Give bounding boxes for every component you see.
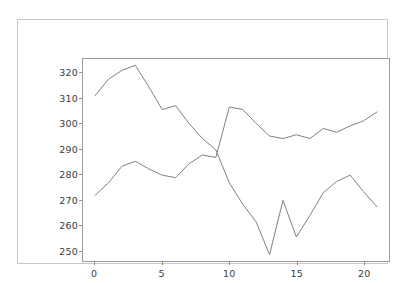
y-tick-label-310: 310 [59,92,78,103]
series-line-2 [95,107,377,195]
y-tick-mark-290 [79,149,82,150]
x-tick-label-20: 20 [358,268,371,279]
x-tick-label-5: 5 [159,268,165,279]
x-tick-mark-5 [162,262,163,265]
y-tick-label-260: 260 [59,220,78,231]
x-tick-label-10: 10 [223,268,236,279]
series-line-1 [95,65,377,254]
x-tick-mark-15 [297,262,298,265]
y-tick-mark-260 [79,225,82,226]
x-tick-label-15: 15 [291,268,304,279]
line-chart-svg [83,59,389,261]
y-axis-tick-marks [79,58,83,262]
y-tick-mark-310 [79,98,82,99]
x-axis-ticks: 05101520 [82,262,390,282]
y-tick-mark-280 [79,174,82,175]
y-axis-tick-labels: 250260270280290300310320 [52,58,78,262]
y-tick-label-250: 250 [59,245,78,256]
y-tick-label-300: 300 [59,118,78,129]
figure-canvas: 250260270280290300310320 05101520 [0,0,407,283]
y-tick-mark-300 [79,123,82,124]
x-tick-label-0: 0 [91,268,97,279]
y-tick-label-320: 320 [59,67,78,78]
plot-area [82,58,390,262]
x-tick-mark-20 [364,262,365,265]
x-tick-mark-0 [94,262,95,265]
y-tick-label-270: 270 [59,194,78,205]
y-tick-mark-320 [79,72,82,73]
y-tick-mark-250 [79,251,82,252]
figure-outer-frame: 250260270280290300310320 05101520 [17,19,388,264]
x-tick-mark-10 [229,262,230,265]
series-group [95,65,377,254]
y-tick-mark-270 [79,200,82,201]
y-tick-label-280: 280 [59,169,78,180]
y-tick-label-290: 290 [59,143,78,154]
